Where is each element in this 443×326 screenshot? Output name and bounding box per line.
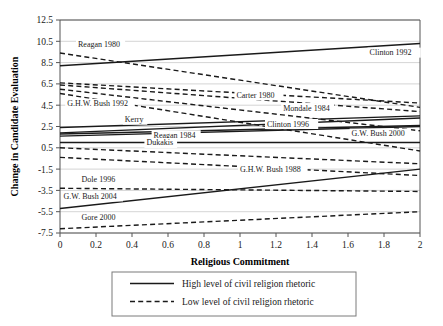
y-tick-label: 6.5 xyxy=(41,79,53,89)
series-line-dukakis-low xyxy=(60,148,420,164)
x-tick-label: 0.4 xyxy=(126,240,138,250)
series-label: Clinton 1992 xyxy=(370,48,412,57)
legend-label: Low level of civil religion rhetoric xyxy=(182,297,314,307)
x-tick-label: 2 xyxy=(418,240,423,250)
series-label: G.H.W. Bush 1988 xyxy=(240,165,301,174)
y-tick-label: 4.5 xyxy=(41,101,53,111)
x-tick-label: 0 xyxy=(58,240,63,250)
series-label: Mondale 1984 xyxy=(283,104,329,113)
x-tick-label: 0.6 xyxy=(162,240,174,250)
x-tick-label: 1.6 xyxy=(342,240,354,250)
y-tick-label: 12.5 xyxy=(36,15,53,25)
series-label: Kerry xyxy=(125,115,144,124)
series-label: G.H.W. Bush 1992 xyxy=(67,99,128,108)
y-tick-label: -7.5 xyxy=(38,228,53,238)
series-label: Clinton 1996 xyxy=(267,120,309,129)
y-tick-label: -5.5 xyxy=(38,207,53,217)
series-label: Reagan 1980 xyxy=(78,40,120,49)
y-tick-label: 10.5 xyxy=(36,37,53,47)
x-tick-label: 1 xyxy=(238,240,243,250)
legend-label: High level of civil religion rhetoric xyxy=(182,279,315,289)
x-axis-title: Religious Commitment xyxy=(191,256,290,267)
chart-figure: 00.20.40.60.811.21.41.61.82 12.510.58.56… xyxy=(0,0,443,326)
x-axis-ticks: 00.20.40.60.811.21.41.61.82 xyxy=(58,233,423,250)
x-tick-label: 0.8 xyxy=(198,240,210,250)
y-axis-title: Change in Candidate Evaluation xyxy=(9,56,20,196)
series-label: Dukakis xyxy=(146,138,173,147)
series-label: G.W. Bush 2004 xyxy=(64,192,117,201)
y-axis-ticks: 12.510.58.56.54.52.50.5-1.5-3.5-5.5-7.5 xyxy=(36,15,60,238)
chart-legend: High level of civil religion rhetoricLow… xyxy=(112,272,356,316)
y-tick-label: 0.5 xyxy=(41,143,53,153)
series-label: Dole 1996 xyxy=(82,175,116,184)
series-label: G.W. Bush 2000 xyxy=(352,129,405,138)
x-tick-label: 1.2 xyxy=(270,240,282,250)
y-tick-label: -1.5 xyxy=(38,165,53,175)
y-tick-label: 2.5 xyxy=(41,122,53,132)
series-label: Carter 1980 xyxy=(236,91,274,100)
series-label: Gore 2000 xyxy=(82,213,116,222)
x-tick-label: 1.4 xyxy=(306,240,318,250)
x-tick-label: 0.2 xyxy=(90,240,102,250)
y-tick-label: -3.5 xyxy=(38,186,53,196)
chart-canvas: 00.20.40.60.811.21.41.61.82 12.510.58.56… xyxy=(0,0,443,326)
y-tick-label: 8.5 xyxy=(41,58,53,68)
x-tick-label: 1.8 xyxy=(378,240,390,250)
